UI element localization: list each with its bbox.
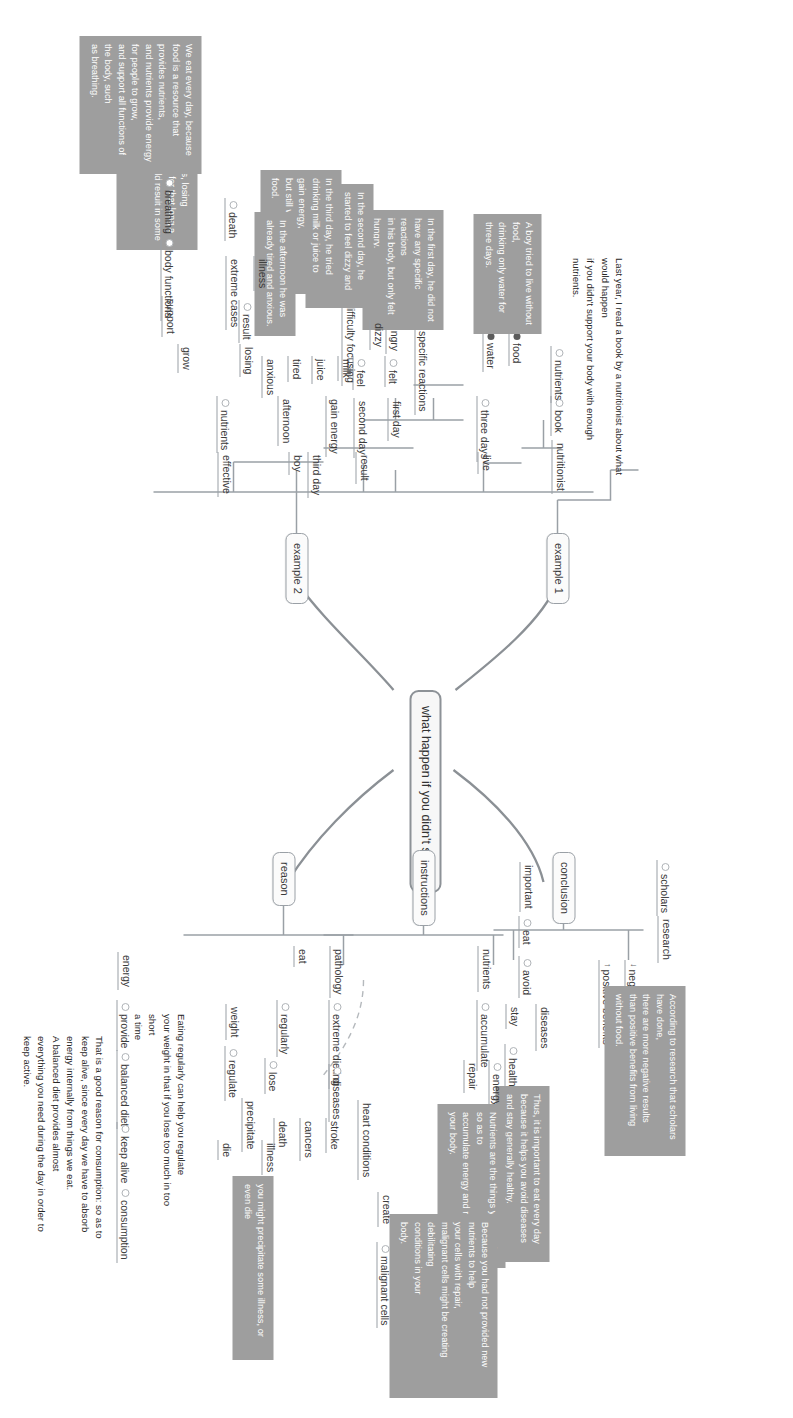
note-malignant-cells: Because you had not provided new nutrien…	[389, 1214, 497, 1398]
node-anxious[interactable]: anxious	[261, 356, 277, 398]
node-three-days[interactable]: three days	[476, 396, 493, 462]
node-keep-alive[interactable]: keep alive	[116, 1122, 133, 1186]
bullet-icon	[121, 1125, 129, 1133]
mindmap-canvas: what happen if you didn't sleep example …	[0, 0, 793, 1418]
bullet-icon	[333, 1067, 341, 1075]
arrow-up-icon: ↑	[602, 963, 612, 968]
node-body-functions[interactable]: body functions	[160, 236, 177, 321]
node-first-day[interactable]: first day	[387, 398, 403, 441]
node-balanced-diet[interactable]: balanced diet	[116, 1050, 133, 1129]
bullet-icon	[229, 201, 237, 209]
node-cancers[interactable]: cancers	[299, 1118, 315, 1161]
branch-example-2[interactable]: example 2	[285, 533, 308, 604]
note-boy-story: A boy tried to live without food, drinki…	[473, 214, 541, 334]
node-breathing[interactable]: breathing	[160, 176, 177, 237]
bullet-icon	[333, 1003, 341, 1011]
food-icon	[513, 333, 520, 340]
note-research: According to research that scholars have…	[604, 986, 685, 1156]
node-consumption[interactable]: consumption	[116, 1186, 133, 1263]
node-provide[interactable]: provide	[116, 1000, 133, 1051]
bullet-icon	[357, 359, 365, 367]
note-precipitate-illness: you might precipitate some illness, or e…	[232, 1176, 273, 1360]
node-eat-conclusion[interactable]: eat	[518, 916, 535, 948]
node-third-day[interactable]: third day	[307, 452, 323, 498]
node-regulate[interactable]: regulate	[224, 1046, 241, 1101]
node-research[interactable]: research	[657, 916, 673, 963]
branch-example-1[interactable]: example 1	[546, 533, 569, 604]
node-juice[interactable]: juice	[311, 356, 327, 384]
node-second-day[interactable]: second day	[353, 398, 369, 458]
bullet-icon	[523, 959, 531, 967]
node-water[interactable]: water	[482, 330, 499, 372]
bullet-icon	[381, 1245, 389, 1253]
node-diseases-instr[interactable]: diseases	[328, 1064, 345, 1122]
bullet-icon	[269, 1061, 277, 1069]
bullet-icon	[221, 399, 229, 407]
branch-reason[interactable]: reason	[272, 852, 295, 906]
bullet-icon	[523, 919, 531, 927]
node-food[interactable]: food	[508, 330, 525, 366]
node-nutrients-e2[interactable]: nutrients	[216, 396, 233, 453]
node-stroke[interactable]: stroke	[325, 1118, 341, 1153]
bullet-icon	[481, 1003, 489, 1011]
node-pathology[interactable]: pathology	[329, 946, 345, 998]
node-grow[interactable]: grow	[177, 344, 193, 373]
bullet-icon	[509, 1047, 517, 1055]
node-regularly[interactable]: regularly	[276, 1000, 293, 1057]
bullet-icon	[121, 1003, 129, 1011]
node-nutrients-e1[interactable]: nutrients	[550, 346, 567, 403]
node-repair[interactable]: repair	[463, 1060, 479, 1093]
note-nutritionist-book: Last year, I read a book by a nutritioni…	[567, 258, 625, 488]
node-stay[interactable]: stay	[505, 1004, 521, 1029]
node-gain-energy[interactable]: gain energy	[325, 396, 341, 457]
branch-conclusion[interactable]: conclusion	[552, 852, 575, 924]
bullet-icon	[481, 399, 489, 407]
note-consumption: That is a good reason for consumption: s…	[19, 1036, 105, 1282]
node-dizzy[interactable]: dizzy	[369, 320, 385, 350]
node-nutritionist[interactable]: nutritionist	[551, 440, 567, 494]
node-afternoon[interactable]: afternoon	[277, 396, 293, 446]
bullet-icon	[389, 359, 397, 367]
bullet-icon	[165, 179, 173, 187]
water-icon	[487, 333, 494, 340]
node-nutrients-instr[interactable]: nutrients	[477, 946, 493, 992]
arrow-down-icon: ↓	[628, 963, 638, 968]
node-death-e2[interactable]: death	[224, 198, 241, 241]
bullet-icon	[165, 239, 173, 247]
note-nutrition-resource: We eat every day, because food is a reso…	[79, 36, 201, 174]
node-effective[interactable]: effective	[217, 452, 233, 497]
node-precipitate[interactable]: precipitate	[241, 1098, 257, 1152]
bullet-icon	[281, 1003, 289, 1011]
node-diseases-conclusion[interactable]: diseases	[535, 1004, 551, 1051]
node-losing[interactable]: losing	[239, 344, 255, 377]
node-illness-reason[interactable]: illness	[261, 1140, 277, 1175]
node-energy-instr[interactable]: energy	[488, 1060, 505, 1109]
node-important[interactable]: important	[519, 862, 535, 912]
node-tired[interactable]: tired	[287, 356, 303, 382]
node-illness-e2[interactable]: illness	[253, 256, 269, 291]
node-heart-conditions[interactable]: heart conditions	[357, 1100, 373, 1180]
bullet-icon	[243, 303, 251, 311]
bullet-icon	[121, 1053, 129, 1061]
bullet-icon	[661, 863, 669, 871]
node-die[interactable]: die	[217, 1140, 233, 1160]
node-boy[interactable]: boy	[288, 452, 304, 475]
node-felt[interactable]: felt	[384, 356, 401, 387]
node-weight[interactable]: weight	[225, 1004, 241, 1040]
bullet-icon	[121, 1189, 129, 1197]
note-day-1: In the first day, he did not have any sp…	[362, 210, 443, 330]
bullet-icon	[493, 1063, 501, 1071]
node-extreme-cases[interactable]: extreme cases	[225, 256, 241, 330]
node-avoid[interactable]: avoid	[518, 956, 535, 998]
node-scholars[interactable]: scholars	[656, 860, 673, 916]
note-regulate-weight: Eating regularly can help you regulate y…	[129, 1014, 187, 1226]
node-lose[interactable]: lose	[264, 1058, 281, 1094]
node-specific-reactions[interactable]: specific reactions	[414, 318, 431, 415]
bullet-icon	[555, 349, 563, 357]
node-milk[interactable]: milk	[337, 356, 353, 381]
node-eat-reason[interactable]: eat	[293, 946, 309, 967]
node-energy-reason[interactable]: energy	[117, 952, 133, 990]
bullet-icon	[229, 1049, 237, 1057]
branch-instructions[interactable]: instructions	[412, 850, 435, 926]
